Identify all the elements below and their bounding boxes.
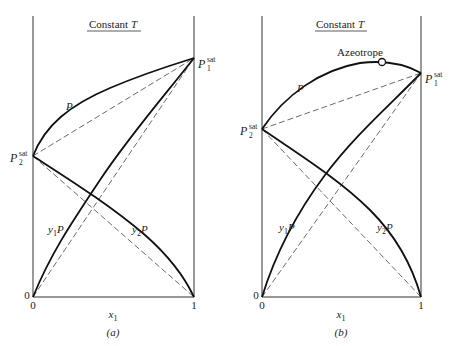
p2-sat-superscript: sat [19,149,28,158]
x-tick-1: 1 [191,299,197,311]
x-tick-0: 0 [30,299,36,311]
total-pressure-label: P [296,82,304,94]
partial-1-label: y1P [47,223,64,238]
p1-sat-label: P [424,72,433,86]
panel-caption: (b) [335,326,348,339]
p1-sat-subscript: 1 [434,79,438,88]
x-axis-label: x1 [336,308,346,323]
panel-a: Constant T P y1P y2P P sat 1 P sat 2 0 0… [9,16,216,339]
azeotrope-marker [379,59,386,66]
partial-1-label: y1P [278,221,295,236]
p2-sat-label: P [9,151,18,165]
raoult-total-line [33,58,194,156]
p1-sat-superscript: sat [434,70,443,79]
p1-sat-label: P [197,57,206,71]
vle-pressure-diagram: Constant T P y1P y2P P sat 1 P sat 2 0 0… [0,0,457,346]
panel-title: Constant T [89,18,138,30]
p2-sat-label: P [239,124,248,138]
panel-caption: (a) [107,326,120,339]
p2-sat-subscript: 2 [249,131,253,140]
azeotrope-label: Azeotrope [337,46,383,58]
p1-sat-subscript: 1 [207,64,211,73]
total-pressure-label: P [65,100,73,112]
p2-sat-superscript: sat [249,122,258,131]
x-tick-0: 0 [259,299,265,311]
x-axis-label: x1 [108,308,118,323]
p2-sat-subscript: 2 [19,158,23,167]
p1-sat-superscript: sat [207,55,216,64]
panel-title: Constant T [316,18,365,30]
x-tick-1: 1 [418,299,424,311]
total-pressure-curve [262,62,421,129]
panel-b: Constant T Azeotrope P y1P y2P P sat 1 P… [239,16,443,339]
